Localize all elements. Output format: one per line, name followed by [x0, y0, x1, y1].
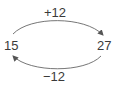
arrow-top-plus [13, 21, 103, 35]
node-right: 27 [97, 39, 111, 52]
node-left: 15 [4, 39, 18, 52]
edge-label-top: +12 [44, 6, 66, 19]
arrow-bottom-minus [13, 56, 101, 69]
edge-label-bottom: −12 [43, 70, 65, 83]
